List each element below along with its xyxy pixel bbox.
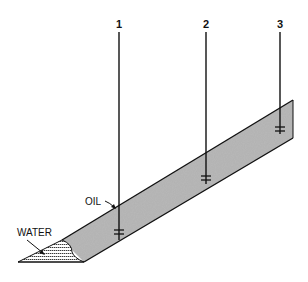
oil-leader-arrow [105,201,116,209]
reservoir-diagram: 1 2 3 OIL WATER [0,0,308,282]
well-3-label: 3 [277,18,283,30]
well-2-label: 2 [203,18,209,30]
water-label: WATER [17,227,52,238]
well-1-label: 1 [116,18,122,30]
oil-layer [62,100,293,262]
oil-label: OIL [85,196,102,207]
